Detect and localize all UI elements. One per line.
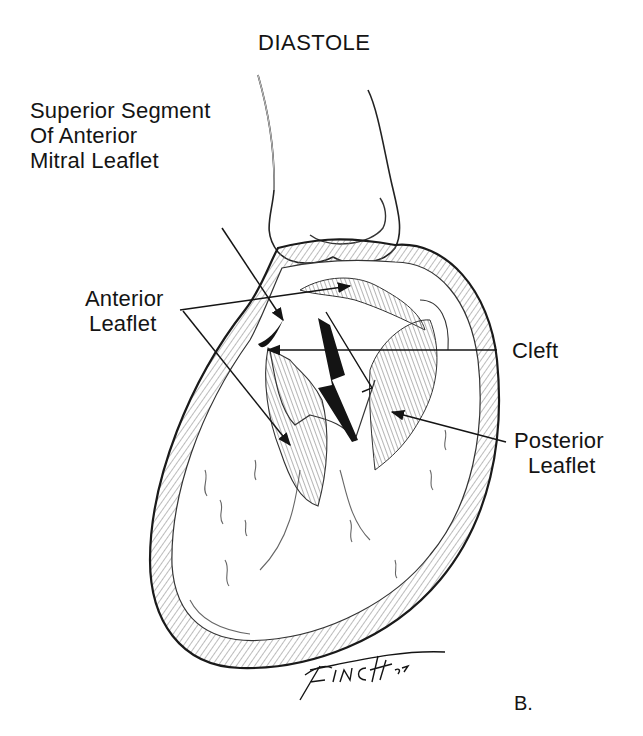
label-line: Of Anterior: [30, 123, 211, 148]
label-superior-segment: Superior Segment Of Anterior Mitral Leaf…: [30, 98, 211, 173]
figure-letter: B.: [514, 692, 533, 715]
artist-signature: [300, 652, 445, 700]
label-line: Anterior: [85, 286, 164, 311]
figure-title: DIASTOLE: [258, 30, 370, 56]
label-line: Mitral Leaflet: [30, 148, 211, 173]
label-line: Leaflet: [85, 311, 164, 336]
label-cleft: Cleft: [512, 338, 558, 363]
aorta: [258, 75, 400, 263]
label-line: Cleft: [512, 338, 558, 363]
label-anterior-leaflet: Anterior Leaflet: [85, 286, 164, 336]
label-line: Superior Segment: [30, 98, 211, 123]
label-line: Leaflet: [514, 453, 604, 478]
label-line: Posterior: [514, 428, 604, 453]
label-posterior-leaflet: Posterior Leaflet: [514, 428, 604, 478]
